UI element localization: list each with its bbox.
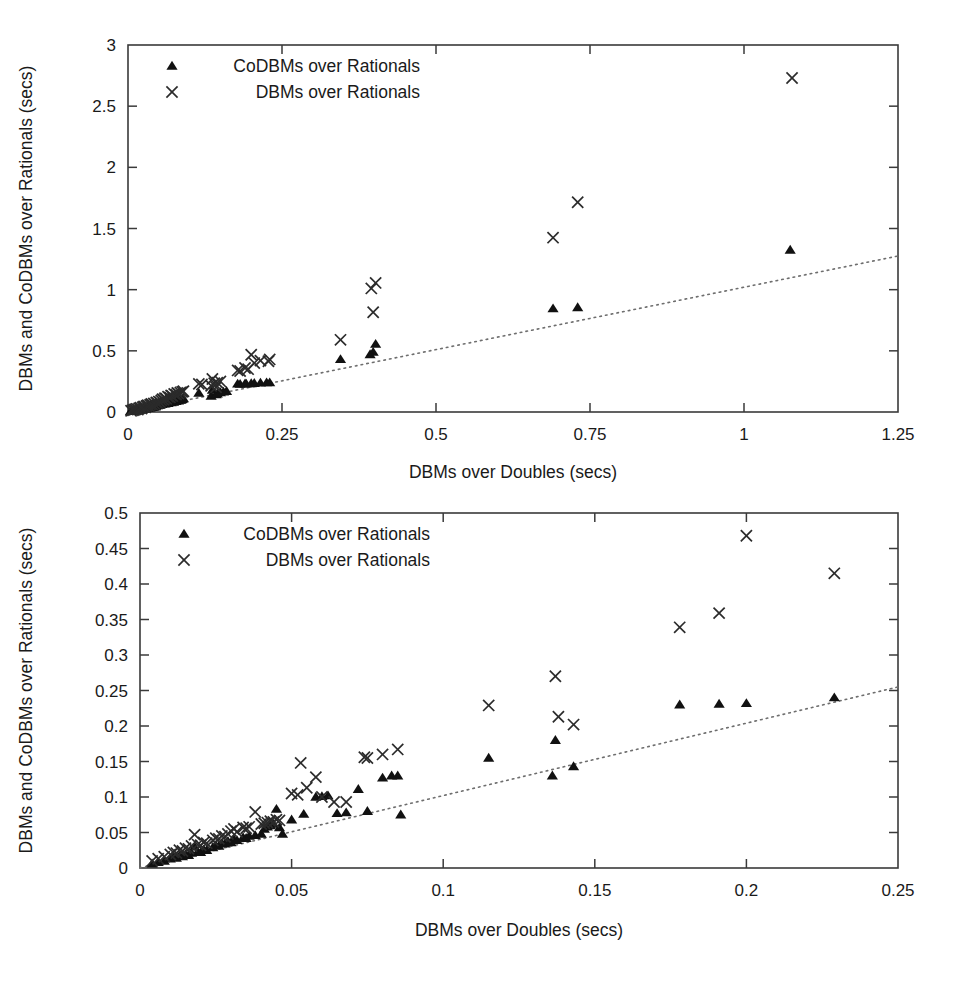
legend-marker-triangle (178, 529, 189, 538)
x-tick-label: 0.2 (735, 881, 759, 900)
y-tick-label: 0.15 (95, 753, 128, 772)
data-point-triangle (271, 804, 282, 813)
data-point-cross (310, 772, 321, 783)
data-point-triangle (829, 692, 840, 701)
data-point-cross (295, 757, 306, 768)
y-axis-title: DBMs and CoDBMs over Rationals (secs) (16, 528, 36, 854)
series-codbms (125, 245, 796, 415)
x-tick-label: 0.05 (275, 881, 308, 900)
data-point-triangle (286, 815, 297, 824)
data-point-cross (483, 700, 494, 711)
y-tick-label: 2 (107, 158, 116, 177)
y-tick-label: 0 (107, 403, 116, 422)
plot-canvas-top: 00.250.50.7511.2500.511.522.53DBMs over … (0, 0, 965, 491)
x-tick-label: 0 (135, 881, 144, 900)
scatter-figure-bottom: 00.050.10.150.20.2500.050.10.150.20.250.… (0, 491, 965, 983)
data-point-triangle (547, 771, 558, 780)
data-point-triangle (335, 354, 346, 363)
x-tick-label: 0 (123, 425, 132, 444)
data-point-cross (550, 671, 561, 682)
x-tick-label: 1 (739, 425, 748, 444)
x-axis-ticks: 00.050.10.150.20.25 (135, 513, 914, 900)
y-tick-label: 0.25 (95, 682, 128, 701)
plot-frame (128, 45, 898, 412)
x-tick-label: 0.5 (424, 425, 448, 444)
reference-diagonal-line (128, 256, 898, 412)
y-tick-label: 0.35 (95, 611, 128, 630)
y-tick-label: 2.5 (92, 97, 116, 116)
data-point-triangle (785, 245, 796, 254)
legend-label: DBMs over Rationals (266, 550, 431, 570)
legend-label: CoDBMs over Rationals (243, 524, 430, 544)
x-axis-title: DBMs over Doubles (secs) (415, 920, 623, 940)
data-point-cross (553, 711, 564, 722)
data-point-cross (568, 719, 579, 730)
data-point-triangle (547, 303, 558, 312)
data-point-cross (547, 232, 558, 243)
y-axis-ticks: 00.050.10.150.20.250.30.350.40.450.5 (95, 504, 898, 878)
y-axis-title: DBMs and CoDBMs over Rationals (secs) (16, 66, 36, 392)
data-point-cross (674, 622, 685, 633)
data-point-cross (392, 744, 403, 755)
data-point-cross (250, 806, 261, 817)
x-tick-label: 0.15 (578, 881, 611, 900)
y-tick-label: 0 (119, 859, 128, 878)
scatter-figure-top: 00.250.50.7511.2500.511.522.53DBMs over … (0, 0, 965, 491)
x-axis-title: DBMs over Doubles (secs) (409, 462, 617, 482)
y-tick-label: 0.1 (104, 788, 128, 807)
x-tick-label: 1.25 (881, 425, 914, 444)
data-point-cross (335, 334, 346, 345)
data-point-triangle (341, 807, 352, 816)
series-dbms (126, 72, 798, 416)
data-point-triangle (483, 753, 494, 762)
data-point-triangle (193, 388, 204, 397)
x-tick-label: 0.1 (431, 881, 455, 900)
y-tick-label: 0.5 (92, 342, 116, 361)
data-point-cross (328, 796, 339, 807)
data-point-cross (829, 568, 840, 579)
y-tick-label: 3 (107, 36, 116, 55)
y-tick-label: 1 (107, 281, 116, 300)
legend-marker-cross (166, 86, 177, 97)
data-point-triangle (353, 784, 364, 793)
y-tick-label: 0.5 (104, 504, 128, 523)
data-point-triangle (395, 810, 406, 819)
legend-marker-cross (178, 554, 189, 565)
data-point-triangle (362, 806, 373, 815)
legend-label: CoDBMs over Rationals (233, 56, 420, 76)
data-point-triangle (298, 809, 309, 818)
y-tick-label: 0.2 (104, 717, 128, 736)
figure-page: 00.250.50.7511.2500.511.522.53DBMs over … (0, 0, 965, 983)
data-point-cross (368, 307, 379, 318)
data-point-triangle (714, 699, 725, 708)
plot-frame (140, 513, 898, 868)
data-point-cross (189, 829, 200, 840)
data-point-triangle (572, 302, 583, 311)
data-point-cross (714, 608, 725, 619)
y-tick-label: 0.45 (95, 540, 128, 559)
data-point-triangle (674, 700, 685, 709)
plot-canvas-bottom: 00.050.10.150.20.2500.050.10.150.20.250.… (0, 491, 965, 983)
legend: CoDBMs over RationalsDBMs over Rationals (166, 56, 420, 102)
data-point-triangle (550, 735, 561, 744)
data-point-cross (572, 197, 583, 208)
legend-label: DBMs over Rationals (256, 82, 421, 102)
x-tick-label: 0.75 (573, 425, 606, 444)
x-tick-label: 0.25 (881, 881, 914, 900)
data-point-triangle (370, 339, 381, 348)
series-codbms (147, 692, 840, 867)
data-point-cross (370, 277, 381, 288)
reference-diagonal-line (140, 687, 898, 868)
legend-marker-triangle (166, 61, 177, 70)
data-point-triangle (741, 698, 752, 707)
data-point-cross (786, 72, 797, 83)
y-tick-label: 0.05 (95, 824, 128, 843)
data-point-cross (377, 749, 388, 760)
data-point-cross (246, 349, 257, 360)
y-tick-label: 0.3 (104, 646, 128, 665)
x-tick-label: 0.25 (265, 425, 298, 444)
data-point-cross (301, 782, 312, 793)
series-dbms (147, 530, 840, 866)
y-tick-label: 0.4 (104, 575, 128, 594)
data-point-triangle (377, 773, 388, 782)
